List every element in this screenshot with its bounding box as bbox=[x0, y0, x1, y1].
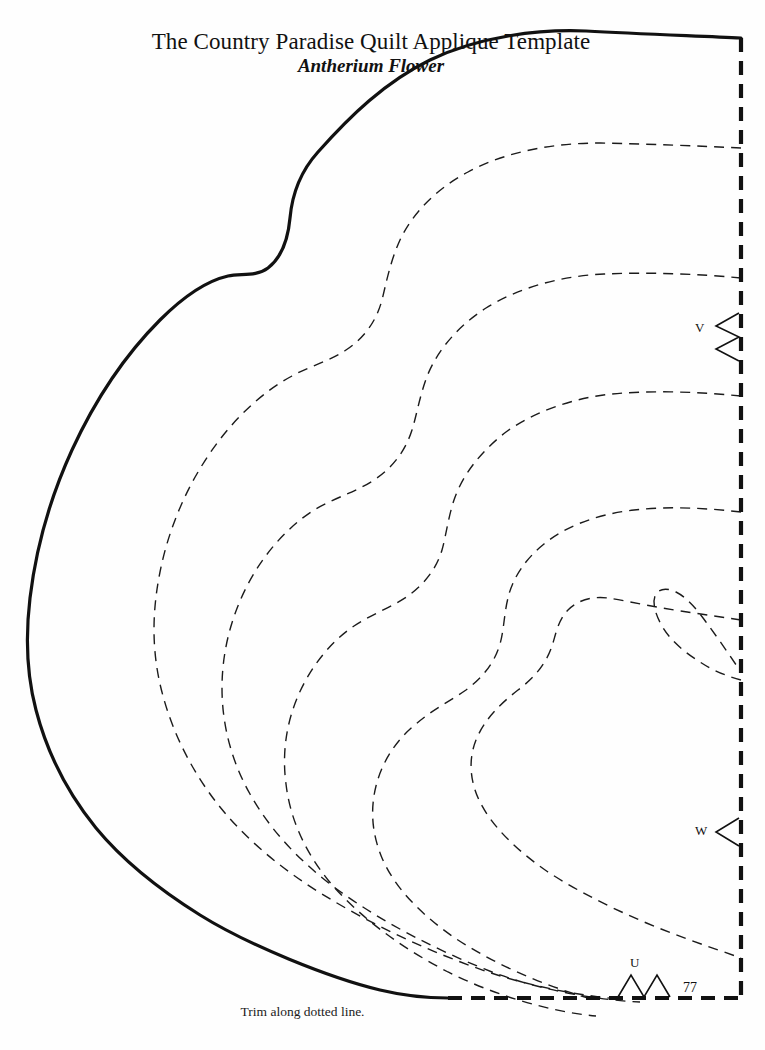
cut-outline-path bbox=[27, 31, 741, 998]
stitch-contour-6-petal-tip bbox=[654, 589, 741, 680]
stitch-contour-3 bbox=[285, 392, 742, 1016]
marker-label-w: W bbox=[695, 823, 707, 839]
marker-label-v: V bbox=[695, 320, 704, 336]
marker-w-notch-icon bbox=[716, 818, 739, 846]
trim-instruction-caption: Trim along dotted line. bbox=[0, 1004, 685, 1020]
applique-template-artwork bbox=[0, 0, 765, 1050]
marker-v-notch-icon bbox=[716, 313, 739, 361]
page-number: 77 bbox=[683, 980, 697, 996]
stitch-contour-4 bbox=[373, 508, 741, 998]
stitch-contour-1 bbox=[154, 143, 741, 999]
marker-u-notch-icon bbox=[618, 975, 670, 997]
marker-label-u: U bbox=[630, 955, 639, 971]
stitch-contour-5 bbox=[471, 598, 741, 959]
stitch-contour-2 bbox=[222, 273, 741, 1002]
template-page: The Country Paradise Quilt Applique Temp… bbox=[0, 0, 765, 1050]
